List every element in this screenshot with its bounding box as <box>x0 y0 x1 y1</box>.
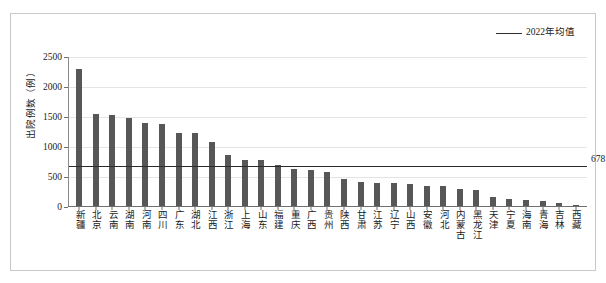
bar-slot <box>518 57 535 207</box>
x-axis-tick-label: 新疆 <box>74 210 85 240</box>
x-axis-tick-label: 上海 <box>239 210 250 240</box>
bar[interactable] <box>324 172 330 207</box>
bar-slot <box>270 57 287 207</box>
x-axis-tick-label: 广西 <box>306 210 317 240</box>
bar[interactable] <box>159 124 165 207</box>
x-label-slot: 海南 <box>518 210 535 240</box>
x-axis-tick-label: 北京 <box>91 210 102 240</box>
chart-legend: 2022年均值 <box>496 26 575 40</box>
x-axis-tick-label: 河南 <box>140 210 151 240</box>
x-label-slot: 西藏 <box>567 210 584 240</box>
bar[interactable] <box>209 142 215 207</box>
bar-slot <box>501 57 518 207</box>
x-axis-tick-label: 福建 <box>273 210 284 240</box>
bar-slot <box>154 57 171 207</box>
x-label-slot: 天津 <box>485 210 502 240</box>
bar-slot <box>203 57 220 207</box>
x-label-slot: 广东 <box>170 210 187 240</box>
x-label-slot: 重庆 <box>286 210 303 240</box>
bar[interactable] <box>275 165 281 207</box>
bar[interactable] <box>440 186 446 207</box>
x-axis-tick-label: 江苏 <box>372 210 383 240</box>
x-label-slot: 河南 <box>137 210 154 240</box>
x-axis-tick-label: 吉林 <box>554 210 565 240</box>
bar[interactable] <box>142 123 148 207</box>
bar-slot <box>385 57 402 207</box>
bar-slot <box>121 57 138 207</box>
bar-slot <box>88 57 105 207</box>
bar[interactable] <box>457 189 463 207</box>
x-label-slot: 四川 <box>154 210 171 240</box>
bar[interactable] <box>358 182 364 207</box>
x-axis-tick-label: 重庆 <box>289 210 300 240</box>
x-axis-labels: 新疆北京云南湖南河南四川广东湖北江西浙江上海山东福建重庆广西贵州陕西甘肃江苏辽宁… <box>68 210 587 240</box>
bar[interactable] <box>473 190 479 207</box>
bar[interactable] <box>126 118 132 207</box>
bar-slot <box>452 57 469 207</box>
x-label-slot: 黑龙江 <box>468 210 485 240</box>
x-axis-tick-label: 甘肃 <box>355 210 366 240</box>
x-label-slot: 内蒙古 <box>452 210 469 240</box>
bar[interactable] <box>308 170 314 207</box>
bar[interactable] <box>93 114 99 207</box>
x-axis-tick-label: 黑龙江 <box>471 210 482 240</box>
x-axis-tick-label: 四川 <box>157 210 168 240</box>
bar[interactable] <box>109 115 115 207</box>
x-label-slot: 吉林 <box>551 210 568 240</box>
x-label-slot: 上海 <box>236 210 253 240</box>
x-label-slot: 浙江 <box>220 210 237 240</box>
x-label-slot: 湖南 <box>121 210 138 240</box>
x-label-slot: 江苏 <box>369 210 386 240</box>
x-axis-tick-label: 海南 <box>521 210 532 240</box>
x-axis-line <box>68 206 587 207</box>
y-axis-line <box>68 57 69 207</box>
bar[interactable] <box>225 155 231 207</box>
bar-slot <box>137 57 154 207</box>
x-axis-tick-label: 贵州 <box>322 210 333 240</box>
bar[interactable] <box>291 169 297 207</box>
x-label-slot: 宁夏 <box>501 210 518 240</box>
bar[interactable] <box>374 183 380 207</box>
x-label-slot: 辽宁 <box>385 210 402 240</box>
bar-slot <box>369 57 386 207</box>
bar[interactable] <box>391 183 397 207</box>
x-label-slot: 甘肃 <box>352 210 369 240</box>
bar-slot <box>352 57 369 207</box>
y-tick-label: 1500 <box>43 112 62 122</box>
bar[interactable] <box>192 133 198 207</box>
bar-slot <box>551 57 568 207</box>
x-axis-tick-label: 广东 <box>173 210 184 240</box>
x-label-slot: 广西 <box>303 210 320 240</box>
bar[interactable] <box>341 179 347 207</box>
bar-slot <box>336 57 353 207</box>
bar[interactable] <box>176 133 182 207</box>
x-axis-tick-label: 青海 <box>537 210 548 240</box>
bar-slot <box>303 57 320 207</box>
x-axis-tick-label: 辽宁 <box>388 210 399 240</box>
x-axis-tick-label: 山东 <box>256 210 267 240</box>
x-axis-tick-label: 云南 <box>107 210 118 240</box>
x-axis-tick-label: 天津 <box>488 210 499 240</box>
x-label-slot: 贵州 <box>319 210 336 240</box>
x-axis-tick-label: 内蒙古 <box>455 210 466 240</box>
bar-slot <box>468 57 485 207</box>
bar[interactable] <box>76 69 82 207</box>
bar[interactable] <box>407 184 413 207</box>
bar-slot <box>220 57 237 207</box>
y-tick-label: 2500 <box>43 52 62 62</box>
y-tick-mark <box>64 207 68 208</box>
y-tick-label: 0 <box>57 202 62 212</box>
x-axis-tick-label: 陕西 <box>339 210 350 240</box>
bar-slot <box>71 57 88 207</box>
bar-series <box>68 57 587 207</box>
x-label-slot: 河北 <box>435 210 452 240</box>
bar-slot <box>435 57 452 207</box>
x-label-slot: 江西 <box>203 210 220 240</box>
bar-slot <box>236 57 253 207</box>
x-axis-tick-label: 安徽 <box>422 210 433 240</box>
bar[interactable] <box>424 186 430 207</box>
bar-slot <box>253 57 270 207</box>
x-label-slot: 山东 <box>253 210 270 240</box>
bar-slot <box>104 57 121 207</box>
plot-area: 2500 2000 1500 1000 500 0 <box>68 57 587 207</box>
